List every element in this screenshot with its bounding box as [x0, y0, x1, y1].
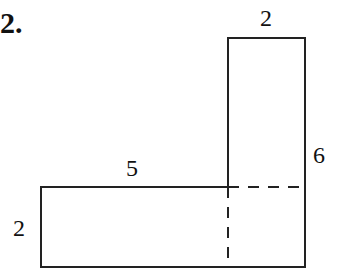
problem-number: 2.	[0, 6, 23, 39]
l-shape-outline	[41, 38, 305, 267]
l-shape-figure: 2. 2 6 5 2	[0, 0, 338, 273]
label-top-width: 2	[260, 5, 272, 31]
label-middle-length: 5	[126, 155, 138, 181]
label-right-height: 6	[313, 142, 325, 168]
label-left-height: 2	[13, 215, 25, 241]
